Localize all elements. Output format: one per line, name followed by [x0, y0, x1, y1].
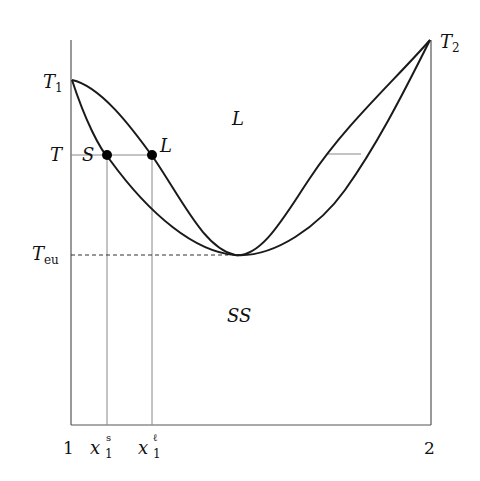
- phase-diagram: T1 T2 T S L Teu L SS 1 2 x s 1 x ℓ 1: [0, 0, 480, 481]
- label-Teu: Teu: [32, 243, 59, 267]
- x-label-1: 1: [63, 438, 74, 458]
- label-T1: T1: [43, 71, 63, 95]
- liquid-point-L: [147, 150, 157, 160]
- liquidus-curve: [72, 40, 430, 255]
- label-L-point: L: [159, 135, 172, 156]
- label-S: S: [82, 144, 94, 165]
- x-label-xs: x: [90, 437, 100, 458]
- x-label-2: 2: [424, 438, 435, 458]
- x-label-xl: x: [138, 437, 148, 458]
- region-label-L: L: [231, 108, 244, 129]
- x-label-xl-sub: 1: [153, 447, 161, 461]
- label-T: T: [50, 144, 64, 165]
- x-label-xl-sup: ℓ: [153, 432, 158, 443]
- solidus-curve: [72, 40, 430, 255]
- region-label-SS: SS: [227, 305, 251, 326]
- label-T2: T2: [440, 31, 460, 55]
- solid-point-S: [102, 150, 112, 160]
- x-label-xs-sup: s: [106, 432, 111, 443]
- x-label-xs-sub: 1: [105, 447, 113, 461]
